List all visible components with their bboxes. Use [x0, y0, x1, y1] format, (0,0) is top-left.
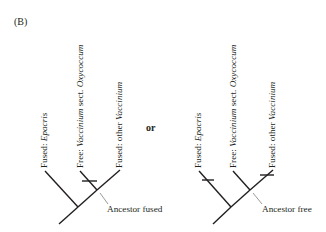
branch-epacris — [45, 171, 78, 207]
tip-label-other-vaccinium: Fused: other Vaccinium — [267, 81, 277, 168]
branch-epacris — [199, 171, 231, 207]
tip-label-oxycoccum: Free: Vaccinium sect. Oxycoccum — [228, 44, 238, 168]
tip-label-oxycoccum: Free: Vaccinium sect. Oxycoccum — [75, 44, 85, 168]
ancestor-pointer — [100, 193, 108, 204]
tip-label-other-vaccinium: Fused: other Vaccinium — [114, 81, 124, 168]
tip-labels-right: Fused: Epacris Free: Vaccinium sect. Oxy… — [193, 44, 277, 168]
branch-oxycoccum — [233, 171, 250, 190]
root-branch — [59, 207, 78, 224]
ancestor-fused-label: Ancestor fused — [107, 204, 162, 214]
phylogeny-diagram: Fused: Epacris Free: Vaccinium sect. Oxy… — [0, 0, 326, 232]
ancestor-pointer — [253, 193, 262, 204]
tip-label-epacris: Fused: Epacris — [39, 112, 49, 168]
internal-branch — [78, 190, 97, 207]
tree-ancestor-free — [199, 170, 274, 224]
internal-branch — [231, 190, 250, 207]
root-branch — [213, 207, 231, 224]
ancestor-free-label: Ancestor free — [262, 204, 312, 214]
branch-other-vaccinium — [250, 170, 273, 190]
tip-label-epacris: Fused: Epacris — [193, 112, 203, 168]
branch-other-vaccinium — [97, 170, 120, 190]
tree-ancestor-fused — [45, 170, 120, 224]
tip-labels-left: Fused: Epacris Free: Vaccinium sect. Oxy… — [39, 44, 124, 168]
